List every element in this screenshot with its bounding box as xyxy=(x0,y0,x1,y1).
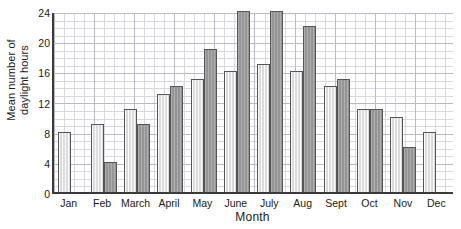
bar-dark xyxy=(303,26,316,192)
bar-group xyxy=(320,13,353,192)
bar-light xyxy=(357,109,370,192)
bar-group xyxy=(54,13,87,192)
bar-group xyxy=(287,13,320,192)
x-axis-label: Month xyxy=(52,210,453,224)
bar-group xyxy=(154,13,187,192)
y-axis-tick-labels: 04812162024 xyxy=(28,0,50,200)
y-tick-label: 12 xyxy=(28,99,50,109)
bar-group xyxy=(420,13,453,192)
bar-groups xyxy=(54,13,453,192)
bar-group xyxy=(121,13,154,192)
y-tick-label: 24 xyxy=(28,8,50,18)
y-axis-label-line-1: Mean number of xyxy=(5,0,18,160)
bar-dark xyxy=(204,49,217,192)
bar-group xyxy=(87,13,120,192)
bar-group xyxy=(353,13,386,192)
bar-dark xyxy=(337,79,350,192)
bar-light xyxy=(257,64,270,192)
bar-dark xyxy=(237,11,250,192)
bar-light xyxy=(390,117,403,192)
y-tick-label: 0 xyxy=(28,189,50,199)
bar-light xyxy=(124,109,137,192)
bar-group xyxy=(254,13,287,192)
bar-group xyxy=(220,13,253,192)
bar-dark xyxy=(270,11,283,192)
bar-light xyxy=(157,94,170,192)
y-tick-label: 20 xyxy=(28,38,50,48)
bar-light xyxy=(423,132,436,192)
y-tick-label: 16 xyxy=(28,68,50,78)
bar-dark xyxy=(370,109,383,192)
bar-dark xyxy=(104,162,117,192)
bar-group xyxy=(187,13,220,192)
bar-light xyxy=(58,132,71,192)
bar-group xyxy=(387,13,420,192)
y-tick-label: 4 xyxy=(28,159,50,169)
daylight-hours-bar-chart: Mean number of daylight hours 0481216202… xyxy=(0,0,461,229)
bar-light xyxy=(91,124,104,192)
bar-light xyxy=(290,71,303,192)
plot-area xyxy=(52,13,453,194)
bar-dark xyxy=(137,124,150,192)
bar-light xyxy=(324,86,337,192)
bar-light xyxy=(191,79,204,192)
bar-light xyxy=(224,71,237,192)
bar-dark xyxy=(403,147,416,192)
bar-dark xyxy=(170,86,183,192)
y-tick-label: 8 xyxy=(28,129,50,139)
